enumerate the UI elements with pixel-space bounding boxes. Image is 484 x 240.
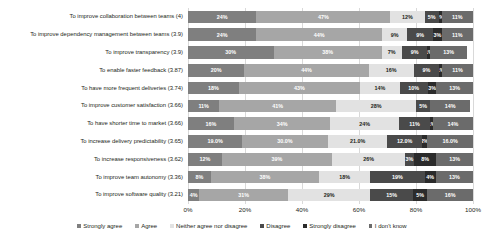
bar-segment: 44%: [244, 64, 368, 77]
segment-value-label: 18%: [339, 174, 350, 180]
segment-value-label: 11%: [409, 121, 420, 127]
bar-segment: 10%: [400, 82, 428, 95]
stacked-bar: 19.0%30.0%21.0%12.0%2%16.0%: [188, 135, 473, 148]
chart-row: To have more frequent deliveries (3.74)1…: [0, 79, 484, 97]
bar-area: 18%43%14%10%3%13%: [188, 82, 473, 95]
segment-value-label: 10%: [408, 85, 419, 91]
bar-segment: 9%: [382, 28, 408, 41]
bar-segment: 13%: [430, 46, 467, 59]
row-label: To improve dependency management between…: [0, 31, 188, 38]
bar-area: 8%38%18%19%4%13%: [188, 171, 473, 184]
segment-value-label: 12%: [402, 14, 413, 20]
legend-item[interactable]: Strongly agree: [77, 222, 122, 230]
chart-row: To improve collaboration between teams (…: [0, 8, 484, 26]
bar-segment: 4%: [188, 189, 199, 202]
bar-segment: 13%: [436, 82, 473, 95]
segment-value-label: 41%: [272, 103, 283, 109]
bar-segment: 16%: [369, 64, 414, 77]
bar-segment: 18%: [319, 171, 370, 184]
stacked-bar: 24%47%12%5%1%11%: [188, 11, 473, 24]
row-label: To improve customer satisfaction (3.66): [0, 102, 188, 109]
bar-segment: 20%: [188, 64, 244, 77]
chart-legend: Strongly agreeAgreeNeither agree nor dis…: [0, 222, 484, 230]
segment-value-label: 13%: [443, 49, 454, 55]
bar-segment: 7%: [382, 46, 402, 59]
bar-segment: 19.0%: [188, 135, 242, 148]
row-label: To have more frequent deliveries (3.74): [0, 85, 188, 92]
segment-value-label: 13%: [449, 174, 460, 180]
bar-segment: 9%: [414, 64, 439, 77]
legend-item[interactable]: Strongly disagree: [303, 222, 356, 230]
segment-value-label: 30.0%: [277, 138, 292, 144]
segment-value-label: 26%: [363, 156, 374, 162]
legend-swatch-icon: [303, 224, 306, 227]
segment-value-label: 43%: [294, 85, 305, 91]
bar-segment: 11%: [188, 100, 219, 113]
segment-value-label: 16%: [205, 121, 216, 127]
bar-segment: 38%: [274, 46, 382, 59]
segment-value-label: 4%: [426, 174, 434, 180]
bar-segment: 5%: [416, 100, 430, 113]
bar-segment: 44%: [256, 28, 381, 41]
segment-value-label: 31%: [238, 192, 249, 198]
segment-value-label: 4%: [190, 192, 198, 198]
legend-item[interactable]: Disagree: [260, 222, 290, 230]
bar-segment: 14%: [430, 100, 470, 113]
row-label: To increase responsiveness (3.62): [0, 156, 188, 163]
legend-label: Strongly disagree: [309, 222, 356, 230]
segment-value-label: 16%: [386, 67, 397, 73]
segment-value-label: 38%: [260, 174, 271, 180]
legend-item[interactable]: Neither agree nor disagree: [170, 222, 247, 230]
stacked-bar-chart: To improve collaboration between teams (…: [0, 0, 484, 240]
legend-item[interactable]: Agree: [135, 222, 157, 230]
bar-segment: 14%: [360, 82, 400, 95]
legend-swatch-icon: [77, 224, 80, 227]
bar-segment: 34%: [234, 117, 331, 130]
row-label: To improve collaboration between teams (…: [0, 13, 188, 20]
chart-rows: To improve collaboration between teams (…: [0, 8, 484, 204]
bar-segment: 9%: [407, 28, 433, 41]
bar-area: 12%39%26%3%8%13%: [188, 153, 473, 166]
segment-value-label: 20%: [211, 67, 222, 73]
stacked-bar: 20%44%16%9%1%11%: [188, 64, 473, 77]
bar-segment: 24%: [330, 117, 398, 130]
chart-row: To improve dependency management between…: [0, 26, 484, 44]
chart-row: To improve customer satisfaction (3.66)1…: [0, 97, 484, 115]
chart-row: To enable faster feedback (3.87)20%44%16…: [0, 61, 484, 79]
segment-value-label: 21.0%: [350, 138, 365, 144]
bar-segment: 11%: [442, 11, 473, 24]
bar-segment: 47%: [256, 11, 390, 24]
bar-segment: 13%: [436, 171, 473, 184]
segment-value-label: 11%: [198, 103, 209, 109]
stacked-bar: 4%31%29%15%5%16%: [188, 189, 473, 202]
segment-value-label: 19%: [392, 174, 403, 180]
bar-segment: 11%: [442, 28, 473, 41]
legend-label: Agree: [141, 222, 157, 230]
legend-swatch-icon: [260, 224, 263, 227]
bar-segment: 18%: [188, 82, 239, 95]
stacked-bar: 30%38%7%9%1%13%: [188, 46, 473, 59]
bar-segment: 41%: [219, 100, 336, 113]
x-axis-tick-label: 40%: [296, 206, 308, 214]
segment-value-label: 15%: [386, 192, 397, 198]
segment-value-label: 8%: [421, 156, 429, 162]
row-label: To enable faster feedback (3.87): [0, 67, 188, 74]
stacked-bar: 12%39%26%3%8%13%: [188, 153, 473, 166]
bar-segment: 11%: [442, 64, 473, 77]
stacked-bar: 16%34%24%11%1%14%: [188, 117, 473, 130]
bar-segment: 8%: [414, 153, 437, 166]
segment-value-label: 14%: [445, 103, 456, 109]
bar-area: 16%34%24%11%1%14%: [188, 117, 473, 130]
segment-value-label: 16.0%: [443, 138, 458, 144]
chart-row: To increase responsiveness (3.62)12%39%2…: [0, 150, 484, 168]
bar-segment: 16%: [188, 117, 234, 130]
row-label: To improve software quality (3.21): [0, 191, 188, 198]
x-axis: 0%20%40%60%80%100%: [188, 206, 473, 216]
segment-value-label: 9%: [411, 49, 419, 55]
bar-segment: 38%: [211, 171, 319, 184]
legend-label: Strongly agree: [83, 222, 122, 230]
segment-value-label: 11%: [452, 67, 463, 73]
chart-row: To increase delivery predictability (3.6…: [0, 133, 484, 151]
bar-segment: 19%: [370, 171, 424, 184]
legend-item[interactable]: I don't know: [369, 222, 407, 230]
